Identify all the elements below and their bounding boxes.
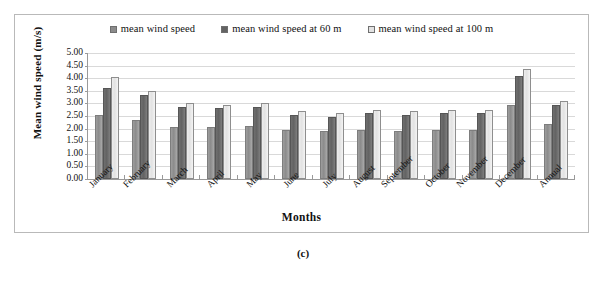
y-tick-label: 3.50 — [66, 86, 83, 96]
bar — [410, 111, 418, 179]
bar-group — [88, 53, 125, 179]
bar — [245, 126, 253, 179]
bar-group — [313, 53, 350, 179]
y-tick-label: 2.00 — [66, 124, 83, 134]
legend-item-2: mean wind speed at 100 m — [368, 24, 494, 35]
figure-container: mean wind speed mean wind speed at 60 m … — [0, 0, 606, 283]
bar-group — [538, 53, 575, 179]
chart-legend: mean wind speed mean wind speed at 60 m … — [15, 24, 588, 35]
bar — [111, 77, 119, 179]
legend-swatch-icon-2 — [368, 26, 375, 33]
y-tick-label: 3.00 — [66, 99, 83, 109]
legend-item-1: mean wind speed at 60 m — [221, 24, 341, 35]
y-tick-label: 1.00 — [66, 149, 83, 159]
legend-label-2: mean wind speed at 100 m — [379, 24, 494, 35]
x-tick-mark — [574, 175, 575, 179]
bar — [298, 111, 306, 179]
bar-groups — [88, 53, 575, 179]
bar — [328, 117, 336, 179]
y-axis-title: Mean wind speed (m/s) — [31, 18, 43, 148]
x-axis-title: Months — [15, 211, 588, 223]
bar — [336, 113, 344, 179]
y-tick-label: 0.00 — [66, 174, 83, 184]
legend-label-1: mean wind speed at 60 m — [232, 24, 341, 35]
y-tick-label: 0.50 — [66, 162, 83, 172]
figure-caption: (c) — [0, 247, 606, 259]
bar — [253, 107, 261, 179]
bar-group — [350, 53, 387, 179]
bar — [186, 103, 194, 179]
chart-frame: mean wind speed mean wind speed at 60 m … — [14, 14, 589, 233]
plot-area: 5.004.504.003.503.002.502.001.501.000.50… — [87, 53, 575, 180]
bar — [261, 103, 269, 179]
bar — [485, 110, 493, 179]
bar-group — [238, 53, 275, 179]
y-tick-label: 1.50 — [66, 136, 83, 146]
y-tick-label: 5.00 — [66, 48, 83, 58]
bar — [282, 130, 290, 179]
legend-swatch-icon-1 — [221, 26, 228, 33]
y-tick-label: 2.50 — [66, 111, 83, 121]
y-tick-label: 4.50 — [66, 61, 83, 71]
bar-group — [275, 53, 312, 179]
bar — [223, 105, 231, 179]
bar-group — [163, 53, 200, 179]
legend-item-0: mean wind speed — [110, 24, 195, 35]
legend-label-0: mean wind speed — [121, 24, 195, 35]
legend-swatch-icon-0 — [110, 26, 117, 33]
bar-group — [200, 53, 237, 179]
bar — [320, 131, 328, 179]
y-tick-label: 4.00 — [66, 73, 83, 83]
